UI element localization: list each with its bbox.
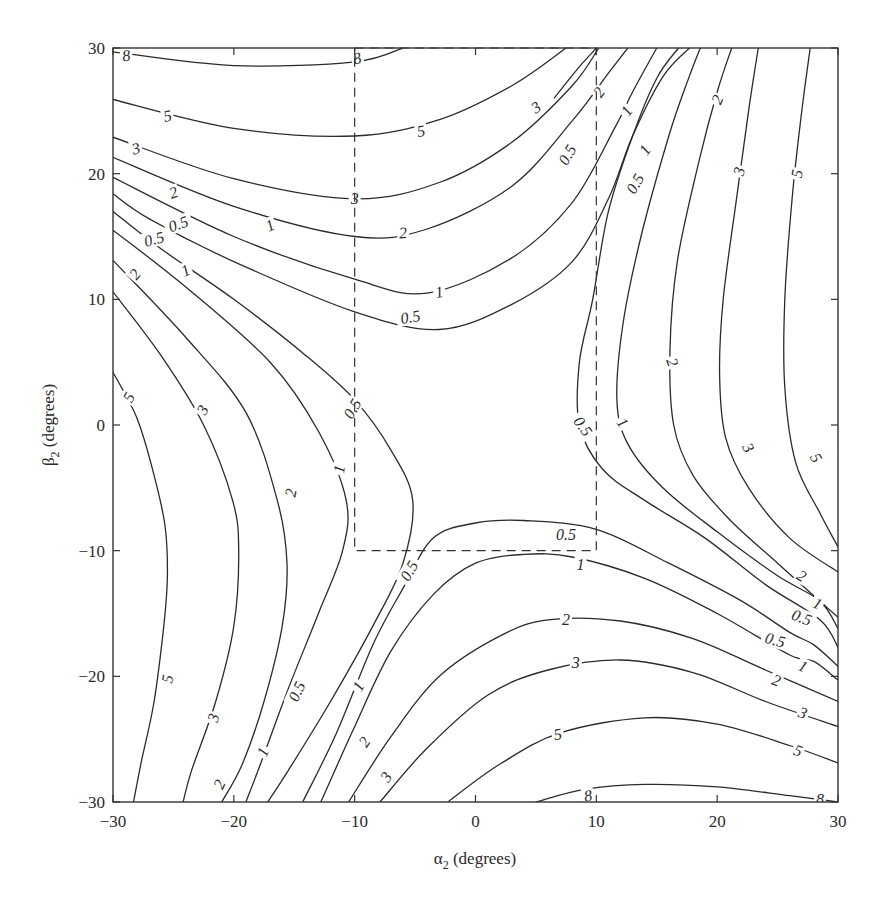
svg-text:2: 2	[562, 611, 570, 628]
contour-line-2	[113, 260, 287, 802]
contour-label: 1	[432, 282, 447, 301]
contour-label: 5	[790, 740, 807, 760]
contour-label: 0.5	[395, 306, 426, 328]
svg-text:0.5: 0.5	[556, 526, 576, 543]
contour-label: 3	[794, 703, 811, 723]
contour-label: 1	[808, 593, 826, 613]
y-tick-label: −10	[78, 542, 105, 561]
contour-line-2	[113, 48, 628, 238]
x-tick-label: 10	[588, 812, 605, 831]
contour-labels: 88553332221110.50.50.50.50.50.5111222335…	[118, 46, 826, 808]
contour-label: 1	[253, 743, 273, 761]
contour-line-0_5	[113, 211, 413, 802]
axis-ticks	[113, 48, 838, 802]
contour-label: 2	[662, 354, 682, 371]
contour-label: 1	[348, 677, 369, 696]
svg-text:0.5: 0.5	[142, 228, 166, 250]
svg-text:0.5: 0.5	[763, 629, 787, 651]
contour-label: 0.5	[568, 410, 598, 443]
contour-line-5	[113, 372, 167, 802]
contour-label: 1	[616, 101, 637, 121]
contour-line-1	[617, 48, 838, 629]
y-axis-title: β2 (degrees)	[39, 384, 62, 466]
contour-label: 8	[814, 791, 826, 808]
contour-line-1	[113, 230, 348, 802]
contour-label: 0.5	[162, 211, 194, 237]
contour-label: 1	[575, 556, 587, 573]
contour-label: 8	[349, 48, 365, 67]
y-tick-label: −20	[78, 667, 105, 686]
contour-label: 0.5	[395, 554, 424, 587]
contour-label: 2	[396, 224, 409, 242]
contour-label: 2	[281, 486, 300, 501]
y-tick-label: 20	[88, 165, 105, 184]
contour-line-3	[113, 292, 239, 802]
x-tick-label: 20	[709, 812, 726, 831]
y-tick-label: 10	[88, 290, 105, 309]
contour-line-5	[448, 717, 838, 802]
dashed-region-box	[355, 48, 597, 551]
contour-label: 1	[634, 140, 655, 160]
contour-label: 5	[550, 725, 565, 744]
x-tick-label: −10	[341, 812, 368, 831]
contour-label: 1	[261, 215, 279, 235]
contour-label: 2	[707, 90, 727, 108]
contour-label: 1	[176, 260, 194, 280]
contour-line-3	[380, 660, 838, 802]
contour-label: 3	[738, 438, 759, 457]
contour-label: 5	[806, 448, 827, 467]
contour-label: 0.5	[138, 227, 169, 251]
x-tick-label: 0	[471, 812, 480, 831]
contour-label: 2	[124, 264, 145, 284]
contour-label: 0.5	[759, 628, 790, 652]
x-axis-tick-labels: −30−20−100102030	[100, 812, 847, 831]
contour-label: 0.5	[621, 167, 650, 200]
svg-text:8: 8	[816, 791, 824, 808]
contour-label: 2	[560, 611, 572, 628]
contour-label: 1	[330, 462, 349, 477]
contour-label: 3	[570, 654, 582, 671]
svg-text:0.5: 0.5	[399, 307, 422, 327]
contour-label: 5	[414, 121, 429, 140]
x-tick-label: 30	[830, 812, 847, 831]
svg-text:1: 1	[577, 556, 585, 573]
contour-line-5	[784, 48, 838, 547]
contour-label: 0.5	[283, 675, 310, 708]
plot-frame	[113, 48, 838, 802]
y-tick-label: 0	[97, 416, 106, 435]
x-tick-label: −20	[221, 812, 248, 831]
contour-label: 5	[160, 106, 175, 125]
contour-label: 2	[588, 82, 609, 102]
contour-label: 2	[209, 775, 229, 793]
contour-label: 5	[118, 388, 139, 407]
contour-line-1	[321, 554, 838, 802]
svg-text:3: 3	[571, 654, 580, 671]
contour-label: 3	[376, 767, 397, 787]
contour-label: 2	[768, 670, 785, 690]
contour-label: 3	[192, 400, 213, 419]
contour-label: 8	[119, 46, 133, 65]
y-tick-label: −30	[78, 793, 105, 812]
contour-label: 2	[354, 732, 375, 752]
contour-line-3	[113, 48, 599, 199]
x-tick-label: −30	[100, 812, 127, 831]
contour-label: 5	[787, 166, 806, 181]
x-axis-title: α2 (degrees)	[434, 849, 516, 872]
contour-label: 0.5	[552, 526, 580, 543]
contour-label: 1	[612, 413, 633, 433]
y-axis-tick-labels: −30−20−100102030	[78, 39, 105, 812]
contour-label: 3	[204, 710, 224, 726]
contour-line-3	[720, 48, 838, 572]
contour-label: 5	[158, 671, 177, 686]
contour-lines	[113, 48, 838, 802]
contour-label: 0.5	[553, 138, 582, 171]
contour-label: 3	[526, 97, 546, 118]
contour-label: 2	[792, 565, 811, 586]
contour-label: 3	[729, 163, 749, 179]
y-tick-label: 30	[88, 39, 105, 58]
contour-label: 3	[128, 139, 144, 159]
contour-line-1	[113, 48, 657, 294]
contour-line-8	[536, 784, 838, 802]
contour-label: 1	[794, 656, 812, 676]
svg-text:2: 2	[398, 224, 407, 242]
